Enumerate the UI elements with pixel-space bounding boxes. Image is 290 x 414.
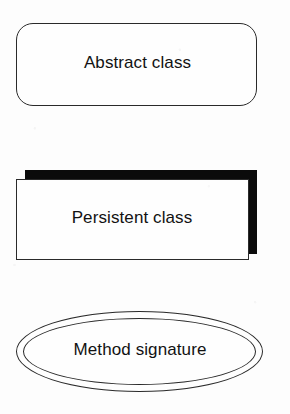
persistent-class-shape-group[interactable]: Persistent class [15, 168, 260, 264]
abstract-class-shape-group[interactable]: Abstract class [15, 22, 260, 110]
persistent-class-label: Persistent class [15, 208, 249, 228]
diagram-canvas: Abstract class Persistent class Method s… [0, 0, 290, 414]
method-signature-shape-group[interactable]: Method signature [14, 310, 266, 396]
abstract-class-label: Abstract class [15, 53, 260, 73]
method-signature-label: Method signature [14, 340, 266, 360]
